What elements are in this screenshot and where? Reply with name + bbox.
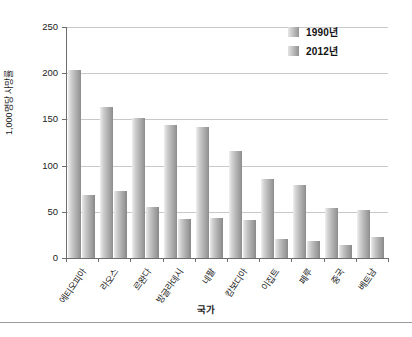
bar-2012[interactable]	[82, 195, 95, 258]
bar-1990[interactable]	[357, 210, 370, 258]
chart-figure: 1,000명당 사망률 050100150200250 에티오피아라오스르완다방…	[0, 0, 412, 337]
bar-2012[interactable]	[339, 245, 352, 258]
bar-1990[interactable]	[293, 185, 306, 258]
bar-2012[interactable]	[146, 207, 159, 258]
legend-item-1990[interactable]: 1990년	[288, 24, 380, 39]
y-tick-label: 150	[24, 113, 58, 124]
bar-1990[interactable]	[325, 208, 338, 258]
bar-1990[interactable]	[196, 127, 209, 258]
bar-2012[interactable]	[275, 239, 288, 258]
chart-legend: 1990년 2012년	[288, 24, 380, 62]
x-tick-mark	[66, 258, 67, 262]
legend-swatch-2012	[288, 46, 299, 56]
x-tick-mark	[291, 258, 292, 262]
bar-1990[interactable]	[229, 151, 242, 258]
y-tick-label: 50	[24, 206, 58, 217]
legend-label-2012: 2012년	[306, 43, 338, 58]
y-axis-label: 1,000명당 사망률	[2, 13, 15, 193]
x-tick-mark	[356, 258, 357, 262]
bar-2012[interactable]	[243, 220, 256, 258]
x-tick-mark	[98, 258, 99, 262]
bar-2012[interactable]	[178, 219, 191, 258]
gridline	[66, 166, 388, 167]
y-tick-label: 250	[24, 21, 58, 32]
legend-label-1990: 1990년	[306, 24, 338, 39]
bar-1990[interactable]	[164, 125, 177, 258]
y-axis-spine	[66, 27, 67, 259]
bar-1990[interactable]	[132, 118, 145, 258]
x-axis-label: 국가	[0, 302, 412, 316]
legend-item-2012[interactable]: 2012년	[288, 43, 380, 58]
x-tick-mark	[259, 258, 260, 262]
x-tick-mark	[324, 258, 325, 262]
bar-2012[interactable]	[210, 218, 223, 258]
x-tick-mark	[195, 258, 196, 262]
gridline	[66, 119, 388, 120]
bar-1990[interactable]	[100, 107, 113, 258]
y-tick-label: 100	[24, 160, 58, 171]
bar-1990[interactable]	[261, 179, 274, 258]
legend-swatch-1990	[288, 27, 299, 37]
figure-bottom-rule	[0, 322, 412, 323]
x-tick-mark	[388, 258, 389, 262]
x-tick-mark	[130, 258, 131, 262]
bar-2012[interactable]	[371, 237, 384, 258]
bar-2012[interactable]	[114, 191, 127, 258]
y-tick-label: 0	[24, 252, 58, 263]
bar-2012[interactable]	[307, 241, 320, 258]
gridline	[66, 73, 388, 74]
x-tick-mark	[227, 258, 228, 262]
bar-1990[interactable]	[68, 70, 81, 258]
x-tick-mark	[163, 258, 164, 262]
y-tick-label: 200	[24, 67, 58, 78]
